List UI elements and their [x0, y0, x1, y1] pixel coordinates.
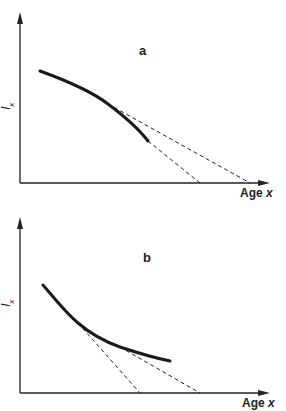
y-axis-arrow-icon: [17, 217, 23, 229]
x-axis-label: Age x: [242, 396, 275, 410]
tangent-line-1: [78, 323, 140, 393]
tangent-line-2: [120, 347, 200, 393]
panel-letter: a: [139, 43, 146, 58]
panel-b-plot: [0, 205, 286, 411]
panel-a-plot: [0, 0, 286, 205]
tangent-line-1: [108, 104, 250, 183]
panel-b: b lx Age x: [0, 205, 286, 411]
panel-a: a lx Age x: [0, 0, 286, 205]
y-axis-arrow-icon: [17, 12, 23, 24]
x-axis-label: Age x: [240, 186, 273, 200]
y-axis-label: lx: [0, 103, 16, 110]
y-axis-label: lx: [0, 300, 16, 307]
survivorship-curve: [40, 71, 148, 141]
survivorship-curve: [43, 285, 170, 361]
tangent-line-2: [148, 141, 200, 183]
panel-letter: b: [143, 250, 151, 265]
